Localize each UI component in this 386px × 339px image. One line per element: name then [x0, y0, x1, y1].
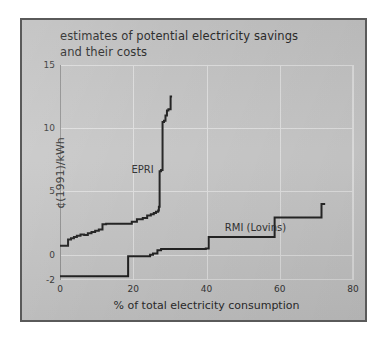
- y-tick-label: 0: [49, 250, 55, 260]
- plot-area: -2051015 020406080 EPRIRMI (Lovins) ¢(19…: [60, 65, 353, 280]
- series-label-rmi-lovins: RMI (Lovins): [225, 222, 286, 233]
- series-plot: [60, 65, 353, 280]
- series-line-rmi-lovins: [60, 204, 325, 276]
- figure-frame: estimates of potential electricity savin…: [20, 18, 367, 322]
- x-tick-label: 20: [128, 284, 139, 294]
- x-tick-label: 60: [274, 284, 285, 294]
- x-axis-label: % of total electricity consumption: [60, 299, 353, 312]
- x-tick-label: 40: [201, 284, 212, 294]
- y-tick-label: 15: [44, 60, 55, 70]
- series-line-epri: [60, 97, 172, 246]
- x-tick-label: 0: [57, 284, 63, 294]
- x-tick-label: 80: [347, 284, 358, 294]
- figure-root: estimates of potential electricity savin…: [0, 0, 386, 339]
- y-tick-label: -2: [46, 275, 55, 285]
- chart-title: estimates of potential electricity savin…: [60, 28, 350, 60]
- series-label-epri: EPRI: [131, 164, 153, 175]
- gridline-vertical: [353, 65, 354, 280]
- y-axis-label: ¢(1991)/kWh: [54, 113, 67, 233]
